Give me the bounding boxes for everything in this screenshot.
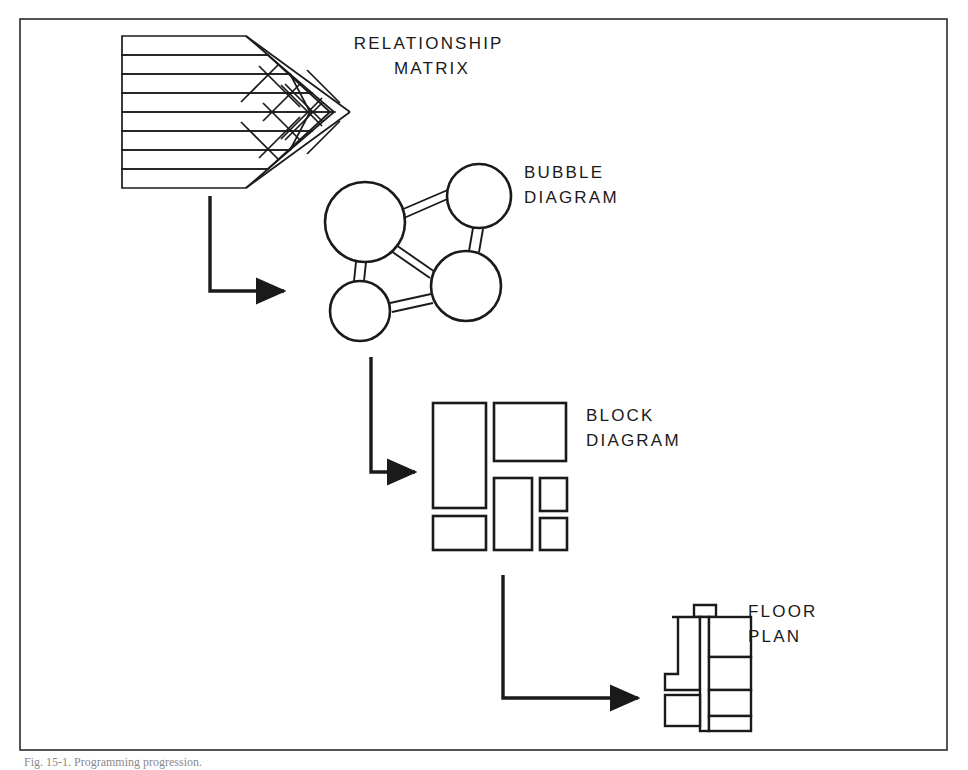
block-rect — [433, 403, 486, 508]
bubble-node — [447, 164, 511, 228]
block-rect — [540, 518, 567, 550]
floor-plan-corridor — [700, 617, 709, 731]
label-line: DIAGRAM — [586, 431, 681, 450]
label-line: FLOOR — [748, 602, 818, 621]
floor-plan-room — [709, 617, 751, 657]
figure-caption: Fig. 15-1. Programming progression. — [24, 755, 202, 769]
floor-plan-room — [709, 690, 751, 716]
block-rect — [494, 478, 532, 550]
floor-plan-room — [665, 695, 700, 726]
figure-page: RELATIONSHIP MATRIX BUBBLE DIAGRAM BLOCK… — [0, 0, 968, 770]
block-rect — [433, 516, 486, 550]
bubble-node — [325, 182, 405, 262]
label-line: PLAN — [748, 627, 801, 646]
floor-plan-graphic — [665, 605, 751, 731]
label-line: BUBBLE — [524, 163, 604, 182]
block-rect — [494, 403, 566, 461]
label-line: RELATIONSHIP — [354, 34, 504, 53]
label-line: BLOCK — [586, 406, 655, 425]
floor-plan-entry-notch — [694, 605, 716, 617]
process-flow-diagram: RELATIONSHIP MATRIX BUBBLE DIAGRAM BLOCK… — [0, 0, 968, 770]
block-rect — [540, 478, 567, 511]
bubble-node — [431, 251, 501, 321]
floor-plan-room — [709, 716, 751, 731]
floor-plan-room — [709, 657, 751, 690]
label-line: MATRIX — [394, 59, 470, 78]
figure-border — [20, 19, 947, 750]
label-line: DIAGRAM — [524, 188, 619, 207]
bubble-node — [330, 281, 390, 341]
